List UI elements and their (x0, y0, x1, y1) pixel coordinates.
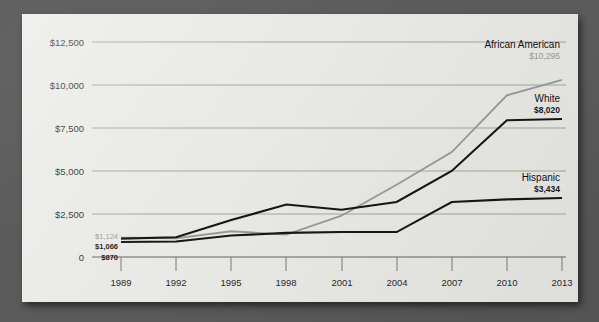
chart-canvas: $12,500 $10,000 $7,500 $5,000 $2,500 0 (0, 0, 599, 322)
y-axis-labels: $12,500 $10,000 $7,500 $5,000 $2,500 0 (50, 37, 84, 263)
x-tick-label: 2013 (551, 277, 572, 288)
series-name-hispanic: Hispanic (522, 172, 560, 183)
line-chart: $12,500 $10,000 $7,500 $5,000 $2,500 0 (22, 14, 578, 302)
gridlines (92, 42, 566, 257)
x-tick-label: 2007 (441, 277, 462, 288)
y-tick-label: $2,500 (55, 209, 84, 220)
y-tick-label: $5,000 (55, 166, 84, 177)
x-tick-label: 2010 (496, 277, 517, 288)
y-tick-label: 0 (79, 252, 84, 263)
series-value-african-american: $10,295 (529, 51, 560, 61)
series-value-white: $8,020 (534, 105, 560, 115)
chart-panel: $12,500 $10,000 $7,500 $5,000 $2,500 0 (22, 14, 578, 302)
x-tick-label: 2001 (331, 277, 352, 288)
y-tick-label: $10,000 (50, 80, 84, 91)
x-axis-ticks (121, 257, 562, 271)
start-label-white: $1,066 (95, 242, 118, 251)
x-tick-label: 2004 (386, 277, 407, 288)
y-tick-label: $7,500 (55, 123, 84, 134)
series-group (121, 80, 562, 242)
series-line-white (121, 119, 562, 239)
series-line-african-american (121, 80, 562, 238)
start-label-hispanic: $870 (101, 253, 118, 262)
start-value-labels: $1,124 $1,066 $870 (95, 232, 118, 262)
x-axis-labels: 1989 1992 1995 1998 2001 2004 2007 2010 … (110, 277, 572, 288)
x-tick-label: 1998 (275, 277, 296, 288)
start-label-african-american: $1,124 (95, 232, 118, 241)
series-name-white: White (534, 93, 560, 104)
series-line-hispanic (121, 198, 562, 242)
y-tick-label: $12,500 (50, 37, 84, 48)
series-value-hispanic: $3,434 (534, 184, 560, 194)
x-tick-label: 1992 (165, 277, 186, 288)
x-tick-label: 1995 (220, 277, 241, 288)
x-tick-label: 1989 (110, 277, 131, 288)
series-name-african-american: African American (484, 39, 560, 50)
